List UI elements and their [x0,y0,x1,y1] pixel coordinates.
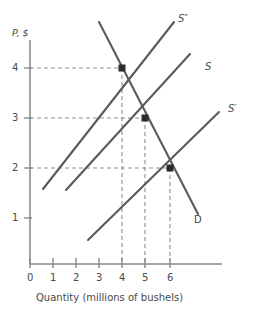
curve-label-s-prime: S′ [228,104,237,114]
supply-curve-s-double-prime [43,22,174,189]
dashed-guide-lines [30,68,170,262]
y-tick-label-2: 2 [12,163,18,173]
x-tick-label-6: 6 [167,273,173,283]
y-axis-title: P, $ [12,28,29,38]
x-tick-label-4: 4 [119,273,125,283]
equilibrium-point-q4-p4 [119,65,126,72]
y-tick-label-1: 1 [12,213,18,223]
curve-label-d: D [194,215,202,225]
equilibrium-point-q6-p2 [167,165,174,172]
x-tick-label-0: 0 [27,273,33,283]
curve-label-s-double-prime: S″ [178,14,188,24]
curves [43,22,219,240]
x-tick-label-5: 5 [142,273,148,283]
y-tick-label-4: 4 [12,63,18,73]
chart-canvas [0,0,253,312]
x-tick-label-2: 2 [73,273,79,283]
x-axis-title: Quantity (millions of bushels) [36,293,183,303]
curve-label-s: S [205,62,211,72]
supply-demand-chart: P, $ 1 2 3 4 0 1 2 3 4 5 6 S″ S S′ D Qua… [0,0,253,312]
x-tick-label-3: 3 [96,273,102,283]
equilibrium-point-q5-p3 [142,115,149,122]
x-tick-label-1: 1 [50,273,56,283]
x-axis-ticks [30,258,170,268]
y-tick-label-3: 3 [12,113,18,123]
